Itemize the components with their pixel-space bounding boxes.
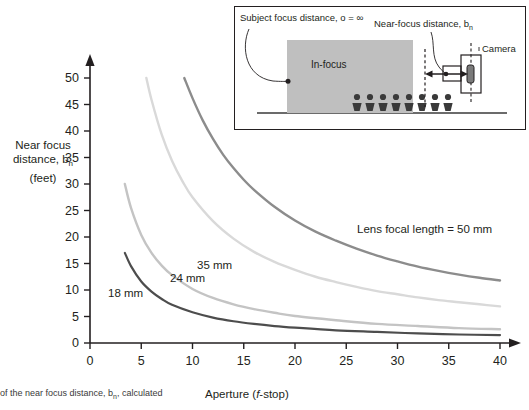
- inset-near-focus-pre: Near-focus distance, b: [374, 18, 469, 29]
- x-tick-label: 30: [391, 354, 405, 368]
- in-focus-region: [287, 40, 413, 113]
- x-axis-label-post: -stop): [259, 388, 288, 400]
- y-tick-label: 40: [65, 124, 79, 138]
- x-tick-label: 25: [339, 354, 353, 368]
- inset-subject-focus-label: Subject focus distance, o = ∞: [240, 12, 363, 23]
- caption-pre: of the near focus distance, b: [0, 388, 113, 398]
- figure-root: 051015202530354045500510152025303540 Nea…: [0, 0, 529, 410]
- y-tick-label: 50: [65, 71, 79, 85]
- inset-camera-label: Camera: [482, 43, 516, 54]
- x-tick-label: 40: [493, 354, 507, 368]
- y-axis-label-line3: (feet): [30, 172, 57, 184]
- x-tick-label: 20: [288, 354, 302, 368]
- x-axis-label: Aperture (f-stop): [205, 388, 405, 400]
- caption-post: , calculated: [117, 388, 163, 398]
- y-tick-label: 0: [72, 336, 79, 350]
- x-axis-label-pre: Aperture (: [205, 388, 256, 400]
- x-tick-label: 10: [186, 354, 200, 368]
- inset-near-focus-label: Near-focus distance, bn: [374, 18, 473, 31]
- curve-label-35mm: 35 mm: [197, 259, 232, 271]
- y-tick-label: 10: [65, 283, 79, 297]
- curve-label-24mm: 24 mm: [170, 272, 205, 284]
- x-tick-label: 0: [87, 354, 94, 368]
- person-figure: [443, 94, 452, 111]
- subject-leader-dot: [286, 79, 291, 84]
- y-tick-label: 45: [65, 98, 79, 112]
- near-focus-measure-arrow: [425, 70, 468, 77]
- camera-lens: [467, 65, 474, 83]
- inset-diagram: Subject focus distance, o = ∞ Near-focus…: [234, 6, 526, 130]
- x-tick-label: 15: [237, 354, 251, 368]
- y-tick-label: 25: [65, 204, 79, 218]
- x-tick-label: 5: [138, 354, 145, 368]
- y-axis-arrowhead: [85, 54, 94, 66]
- x-tick-label: 35: [442, 354, 456, 368]
- y-tick-label: 20: [65, 230, 79, 244]
- y-axis-label-line1: Near focus: [15, 139, 71, 151]
- y-axis-label-line2: distance, bn: [13, 153, 73, 165]
- series-curve-18-mm: [125, 253, 500, 335]
- x-axis-arrowhead: [509, 338, 521, 347]
- y-tick-label: 5: [72, 310, 79, 324]
- y-axis-label: Near focus distance, bn (feet): [4, 138, 82, 185]
- person-figure: [430, 94, 439, 111]
- figure-caption-fragment: of the near focus distance, bn, calculat…: [0, 388, 200, 400]
- subject-leader-line: [245, 29, 287, 81]
- curve-label-18mm: 18 mm: [108, 287, 143, 299]
- inset-in-focus-label: In-focus: [311, 59, 347, 70]
- y-axis-label-subscript: n: [69, 159, 73, 168]
- y-tick-label: 15: [65, 257, 79, 271]
- curve-label-50mm: Lens focal length = 50 mm: [357, 223, 492, 235]
- inset-near-focus-subscript: n: [469, 24, 473, 31]
